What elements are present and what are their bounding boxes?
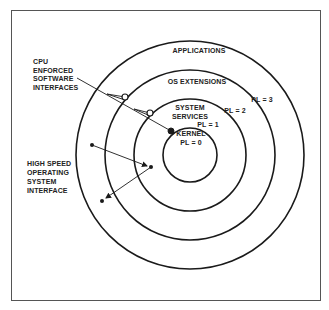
call-target-dot xyxy=(149,165,153,169)
cpu-enforced-line: SOFTWARE xyxy=(33,75,78,84)
cpu-enforced-line: ENFORCED xyxy=(33,67,78,76)
protection-rings-diagram xyxy=(0,0,329,310)
cpu-enforced-line: INTERFACES xyxy=(33,84,78,93)
ring-applications xyxy=(76,41,304,269)
return-arrow xyxy=(106,167,151,198)
gate-icon-kernel xyxy=(168,128,174,134)
high-speed-line: HIGH SPEED xyxy=(27,159,71,168)
cpu-interface-pointer xyxy=(77,78,171,131)
call-origin-dot xyxy=(90,143,94,147)
label-system: SYSTEM xyxy=(175,104,204,113)
gate-icon-ring1 xyxy=(147,110,153,116)
return-target-dot xyxy=(100,199,104,203)
high-speed-line: OPERATING xyxy=(27,168,71,177)
high-speed-line: INTERFACE xyxy=(27,186,71,195)
call-arrow xyxy=(92,145,147,166)
high-speed-interface-label: HIGH SPEED OPERATING SYSTEM INTERFACE xyxy=(27,159,71,195)
label-kernel: KERNEL xyxy=(176,130,205,139)
gate-icon-ring2 xyxy=(122,94,128,100)
high-speed-line: SYSTEM xyxy=(27,177,71,186)
label-applications: APPLICATIONS xyxy=(173,47,226,56)
label-pl0: PL = 0 xyxy=(180,139,201,148)
cpu-enforced-label: CPU ENFORCED SOFTWARE INTERFACES xyxy=(33,58,78,92)
cpu-enforced-line: CPU xyxy=(33,58,78,67)
label-pl3: PL = 3 xyxy=(251,96,272,105)
ring-os-extensions xyxy=(105,70,275,240)
label-os-extensions: OS EXTENSIONS xyxy=(168,78,226,87)
label-pl2: PL = 2 xyxy=(224,107,245,116)
label-pl1: PL = 1 xyxy=(197,121,218,130)
